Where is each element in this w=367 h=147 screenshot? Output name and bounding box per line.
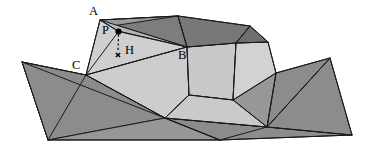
point-label-b: B (178, 49, 186, 62)
point-label-h: H (125, 44, 134, 57)
point-label-a: A (89, 5, 98, 18)
point-label-c: C (72, 59, 80, 72)
point-label-p: P (102, 24, 109, 37)
face-solid-face-Bright (187, 43, 236, 100)
figure-canvas (0, 0, 367, 147)
geometry-figure: A P H C B (0, 0, 367, 147)
point-p-dot (115, 28, 121, 34)
faces-layer (22, 16, 352, 140)
